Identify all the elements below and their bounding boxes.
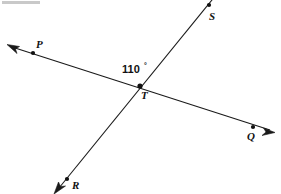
point-dot-r: [65, 177, 69, 181]
point-label-r: R: [71, 179, 79, 191]
diagram-canvas: P Q R S T 110 °: [0, 0, 281, 194]
arrow-head-r: [54, 182, 66, 194]
angle-measure-value: 110: [122, 63, 140, 75]
line-rs: [59, 0, 216, 188]
top-left-scan-artifact: [2, 1, 40, 4]
point-label-s: S: [209, 10, 215, 22]
point-dot-s: [207, 3, 211, 7]
point-dot-q: [251, 125, 255, 129]
point-dot-t: [137, 83, 142, 88]
point-label-p: P: [36, 38, 43, 50]
point-label-q: Q: [247, 130, 255, 142]
geometry-figure: P Q R S T 110 °: [0, 0, 281, 194]
point-dot-p: [31, 51, 35, 55]
angle-degree-symbol: °: [144, 62, 147, 69]
